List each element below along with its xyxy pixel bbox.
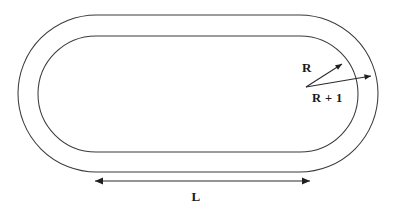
figure-background <box>0 0 396 211</box>
label-outer-radius: R + 1 <box>312 91 343 105</box>
diagram-canvas: R R + 1 L <box>0 0 396 211</box>
label-inner-radius: R <box>302 60 312 75</box>
track-geometry-figure: R R + 1 L <box>0 0 396 211</box>
label-straight-length: L <box>191 189 200 204</box>
